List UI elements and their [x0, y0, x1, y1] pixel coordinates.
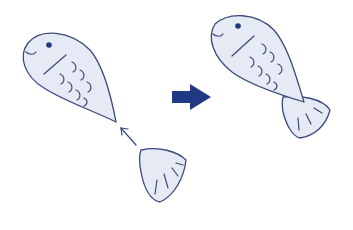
eye-icon [235, 23, 241, 29]
result-arrow-icon [172, 84, 211, 110]
fish-body-before [23, 33, 116, 122]
diagram-canvas [0, 0, 353, 230]
tail-fin-detached [140, 149, 187, 202]
fish-complete [211, 16, 330, 138]
attach-arrow-icon [121, 128, 136, 145]
eye-icon [46, 42, 52, 48]
